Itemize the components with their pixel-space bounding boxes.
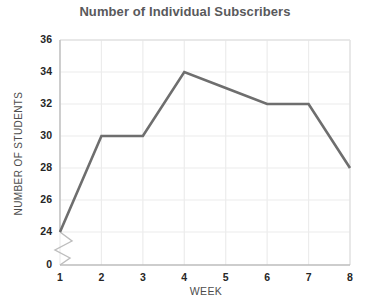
x-axis-title: WEEK [60, 285, 352, 297]
x-tick-label: 3 [133, 271, 153, 283]
x-tick-label: 4 [174, 271, 194, 283]
y-tick-label: 0 [26, 258, 52, 270]
x-tick-label: 1 [50, 271, 70, 283]
x-tick-label: 2 [91, 271, 111, 283]
y-tick-label: 36 [26, 33, 52, 45]
data-series-line [60, 72, 350, 232]
plot-area [0, 0, 370, 302]
x-tick-label: 8 [340, 271, 360, 283]
y-tick-label: 28 [26, 161, 52, 173]
y-tick-label: 34 [26, 65, 52, 77]
line-chart: Number of Individual Subscribers 0242628… [0, 0, 370, 302]
x-tick-label: 5 [216, 271, 236, 283]
x-tick-label: 7 [299, 271, 319, 283]
y-tick-label: 26 [26, 193, 52, 205]
y-tick-label: 30 [26, 129, 52, 141]
axis-break-marker [55, 232, 72, 265]
x-tick-label: 6 [257, 271, 277, 283]
y-tick-label: 32 [26, 97, 52, 109]
axis-frame [60, 40, 350, 265]
gridlines [60, 40, 350, 265]
y-tick-label: 24 [26, 225, 52, 237]
y-axis-title: NUMBER OF STUDENTS [13, 74, 24, 234]
